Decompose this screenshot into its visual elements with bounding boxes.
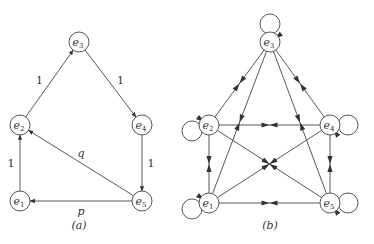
edge-label-e5-e1: p — [77, 205, 84, 218]
caption-a: (a) — [71, 219, 86, 232]
edge-label-e3-e4: 1 — [117, 74, 124, 87]
arrow-e1-to-e2 — [206, 164, 211, 172]
arrow-e1-to-e4 — [261, 164, 269, 171]
self-loop-e4 — [338, 115, 358, 135]
arrow-e2-to-e3 — [233, 84, 240, 92]
arrow-e5-to-e2 — [270, 164, 278, 171]
arrow-e4-to-e1 — [270, 157, 278, 164]
edge-label-e4-e5: 1 — [148, 157, 155, 170]
arrow-e1-to-e5 — [262, 200, 270, 205]
arrow-e3-to-e4 — [293, 75, 300, 83]
arrow-e5-to-e1 — [270, 200, 278, 205]
arrow-e5-to-e4 — [327, 164, 332, 172]
caption-b: (b) — [262, 219, 278, 232]
edge-e3-e4 — [85, 50, 136, 117]
node-b-e3: e3 — [260, 32, 280, 52]
edge-label-e2-e3: 1 — [36, 74, 43, 87]
arrow-e3-to-e5 — [295, 114, 300, 122]
arrow-e2-to-e5 — [261, 157, 269, 164]
node-a-e5: e5 — [132, 191, 152, 211]
self-loop-e3 — [260, 14, 280, 34]
arrow-e4-to-e3 — [300, 84, 307, 92]
arrow-e4-to-e5 — [327, 156, 332, 164]
arrow-e5-to-e3 — [300, 123, 305, 131]
node-a-e4: e4 — [132, 115, 152, 135]
arrow-e2-to-e1 — [206, 156, 211, 164]
self-loop-e5 — [338, 193, 358, 213]
arrow-e3-to-e2 — [240, 76, 247, 84]
arrow-e1-to-e3 — [234, 123, 239, 131]
graph-b: e1e2e3e4e5 — [182, 14, 358, 219]
node-b-e1: e1 — [199, 193, 219, 213]
node-b-e5: e5 — [320, 193, 340, 213]
edge-label-e5-e2: q — [77, 147, 84, 160]
arrow-e2-to-e4 — [262, 122, 270, 127]
arrow-e4-to-e2 — [270, 122, 278, 127]
edge-e2-e3 — [26, 50, 73, 117]
edge-label-e1-e2: 1 — [8, 157, 15, 170]
graph-a: 1111pqe1e2e3e4e5 — [8, 32, 155, 218]
arrow-e3-to-e1 — [240, 114, 245, 122]
node-b-e4: e4 — [320, 115, 340, 135]
node-a-e2: e2 — [10, 115, 30, 135]
node-a-e3: e3 — [69, 32, 89, 52]
node-b-e2: e2 — [199, 115, 219, 135]
node-a-e1: e1 — [10, 191, 30, 211]
edge-e5-e2 — [28, 130, 133, 195]
diagram-canvas: 1111pqe1e2e3e4e5 e1e2e3e4e5 (a) (b) — [0, 0, 374, 244]
